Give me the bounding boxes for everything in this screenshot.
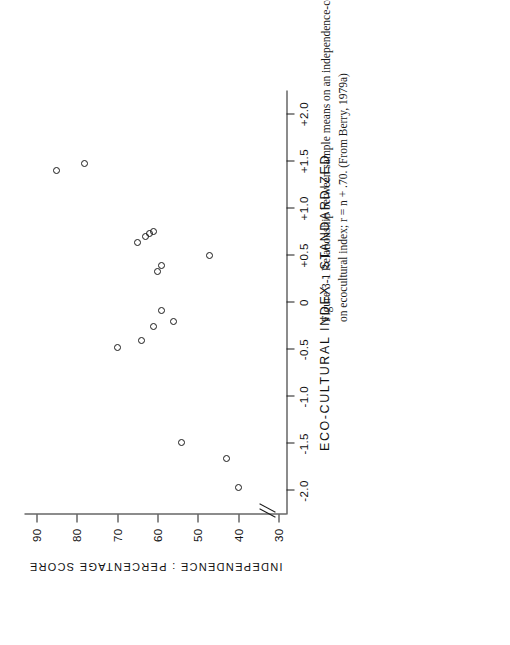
x-tick-label: -0.5 xyxy=(298,339,310,360)
x-tick-label: -1.0 xyxy=(298,386,310,407)
rotated-plot-wrapper: -2.0-1.5-1.0-0.50+0.5+1.0+1.5+2.0 304050… xyxy=(0,73,345,573)
data-point xyxy=(81,161,88,168)
y-axis-title: INDEPENDENCE : PERCENTAGE SCORE xyxy=(28,561,282,573)
x-tick-mark xyxy=(287,443,295,444)
y-tick-mark xyxy=(158,515,159,523)
scatter-plot: -2.0-1.5-1.0-0.50+0.5+1.0+1.5+2.0 304050… xyxy=(0,73,345,573)
data-point xyxy=(178,439,185,446)
y-tick-label: 40 xyxy=(232,529,244,543)
y-tick-mark xyxy=(117,515,118,523)
caption-line-2: on ecocultural index; r = n + .70. (From… xyxy=(335,0,352,322)
data-point xyxy=(158,262,165,269)
figure-caption: Figure 3-1 Relationship between sample m… xyxy=(318,0,351,322)
y-tick-mark xyxy=(77,515,78,523)
y-axis-line xyxy=(25,514,287,515)
y-tick-label: 70 xyxy=(111,529,123,543)
data-point xyxy=(138,337,145,344)
x-tick-label: -2.0 xyxy=(298,480,310,501)
data-point xyxy=(206,252,213,259)
y-tick-mark xyxy=(37,515,38,523)
figure-page: -2.0-1.5-1.0-0.50+0.5+1.0+1.5+2.0 304050… xyxy=(0,0,510,645)
x-axis-line xyxy=(287,91,288,515)
y-tick-label: 30 xyxy=(272,529,284,543)
data-point xyxy=(158,307,165,314)
y-tick-mark xyxy=(278,515,279,523)
y-tick-label: 90 xyxy=(31,529,43,543)
caption-line-1: Figure 3-1 Relationship between sample m… xyxy=(318,0,335,322)
x-tick-mark xyxy=(287,490,295,491)
data-point xyxy=(150,228,157,235)
y-axis-break-icon xyxy=(258,503,280,519)
data-point xyxy=(223,455,230,462)
x-tick-label: +1.0 xyxy=(298,196,310,220)
y-tick-label: 60 xyxy=(152,529,164,543)
data-point xyxy=(235,484,242,491)
data-point xyxy=(53,167,60,174)
x-tick-mark xyxy=(287,113,295,114)
y-tick-label: 50 xyxy=(192,529,204,543)
data-point xyxy=(150,324,157,331)
x-tick-label: +2.0 xyxy=(298,102,310,126)
x-tick-mark xyxy=(287,396,295,397)
y-tick-mark xyxy=(238,515,239,523)
data-point xyxy=(134,239,141,246)
x-tick-mark xyxy=(287,254,295,255)
y-tick-label: 80 xyxy=(71,529,83,543)
x-tick-label: +0.5 xyxy=(298,243,310,267)
x-tick-mark xyxy=(287,302,295,303)
x-tick-mark xyxy=(287,207,295,208)
data-point xyxy=(170,318,177,325)
x-tick-label: 0 xyxy=(298,299,310,306)
x-tick-mark xyxy=(287,349,295,350)
x-tick-label: +1.5 xyxy=(298,149,310,173)
x-tick-label: -1.5 xyxy=(298,433,310,454)
data-point xyxy=(114,344,121,351)
x-tick-mark xyxy=(287,160,295,161)
y-tick-mark xyxy=(198,515,199,523)
